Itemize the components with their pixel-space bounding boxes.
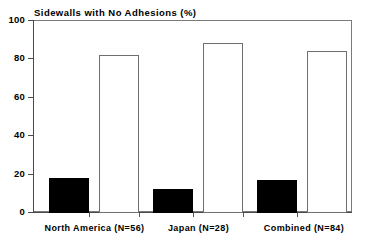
y-axis-label-80: 80 [0,53,25,62]
y-axis-label-60: 60 [0,92,25,101]
group-label-combined: Combined (N=84) [240,223,368,233]
bar-combined-solid [257,180,297,213]
y-axis-label-20: 20 [0,169,25,178]
chart-title: Sidewalls with No Adhesions (%) [34,7,196,18]
bar-japan-open [203,43,243,213]
y-tick-100 [28,20,33,21]
y-tick-20 [28,174,33,175]
bar-north-america-open [99,55,139,213]
x-tick-4 [243,213,244,217]
x-tick-1 [89,213,90,217]
y-tick-60 [28,97,33,98]
y-axis-line [33,20,34,213]
y-axis-label-100: 100 [0,15,25,24]
x-tick-3 [193,213,194,217]
bar-chart-figure: Sidewalls with No Adhesions (%) 100 80 6… [0,0,368,245]
bar-combined-open [307,51,347,213]
y-axis-label-0: 0 [0,207,25,216]
y-tick-40 [28,135,33,136]
y-tick-80 [28,58,33,59]
bar-japan-solid [153,189,193,213]
y-tick-0 [28,212,33,213]
bar-north-america-solid [49,178,89,213]
x-tick-5 [297,213,298,217]
x-tick-2 [139,213,140,217]
y-axis-label-40: 40 [0,130,25,139]
